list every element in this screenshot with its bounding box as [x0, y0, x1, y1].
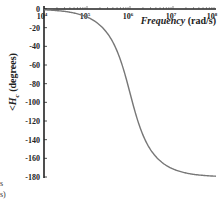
y-tick-label: -140: [25, 136, 40, 145]
y-tick-label: -60: [29, 61, 40, 70]
x-tick-label: 106: [123, 12, 134, 21]
x-tick-label: 104: [37, 12, 48, 21]
x-axis-label: Frequency (rad/s): [140, 15, 216, 27]
cropped-text-remnant: s: [0, 179, 3, 188]
y-tick-label: -120: [25, 117, 40, 126]
y-tick-label: -20: [29, 24, 40, 33]
y-tick-label: -100: [25, 98, 40, 107]
phase-curve: [44, 10, 216, 176]
y-axis-label: <Hc (degrees): [7, 53, 21, 111]
y-tick-label: -180: [25, 173, 40, 182]
phase-plot: 0-20-40-60-80-100-120-140-160-180 104105…: [0, 0, 221, 202]
y-tick-label: -40: [29, 42, 40, 51]
y-tick-label: -80: [29, 80, 40, 89]
cropped-text-remnant: s): [0, 190, 6, 199]
y-tick-label: -160: [25, 154, 40, 163]
